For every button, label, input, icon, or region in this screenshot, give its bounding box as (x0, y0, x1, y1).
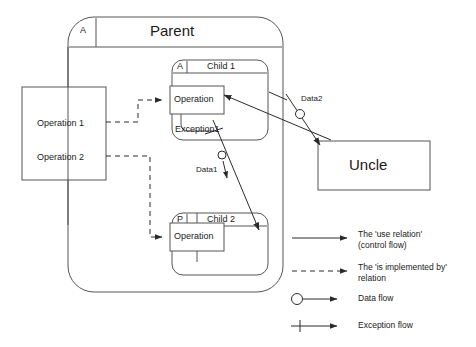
child1-operation-label: Operation (174, 94, 214, 104)
parent-tag-label: A (80, 25, 86, 35)
child1-exception-label: Exception1 (175, 124, 220, 134)
legend-label-data-flow: Data flow (358, 294, 393, 304)
child2-title-label: Child 2 (207, 214, 235, 224)
operations-box-shape (22, 47, 106, 225)
implemented-by-op2-arrow (106, 156, 162, 237)
child1-tag-label: A (177, 61, 183, 71)
uncle-title-label: Uncle (349, 156, 387, 173)
diagram-canvas: A Parent A Child 1 Operation Exception1 … (0, 0, 476, 347)
child2-tag-label: P (177, 214, 183, 224)
child1-title-label: Child 1 (207, 61, 235, 71)
legend-label-use-relation-line1: The 'use relation' (358, 230, 422, 240)
legend-label-use-relation-line2: (control flow) (358, 241, 407, 251)
operations-row-2-label: Operation 2 (37, 152, 84, 162)
legend-label-exception-flow: Exception flow (358, 321, 413, 331)
data2-label: Data2 (301, 94, 322, 103)
operations-row-1-label: Operation 1 (37, 118, 84, 128)
legend-glyph-exception-flow (291, 320, 337, 332)
parent-title-label: Parent (150, 22, 194, 39)
implemented-by-op1-arrow (106, 100, 162, 122)
legend-label-implemented-by-line2: relation (358, 274, 386, 284)
child2-operation-label: Operation (174, 231, 214, 241)
legend-glyph-data-flow (292, 294, 338, 305)
data1-flow-arrow (218, 151, 227, 178)
diagram-vector-layer (0, 0, 476, 347)
data1-label: Data1 (196, 165, 217, 174)
legend-label-implemented-by-line1: The 'is implemented by' (358, 263, 447, 273)
